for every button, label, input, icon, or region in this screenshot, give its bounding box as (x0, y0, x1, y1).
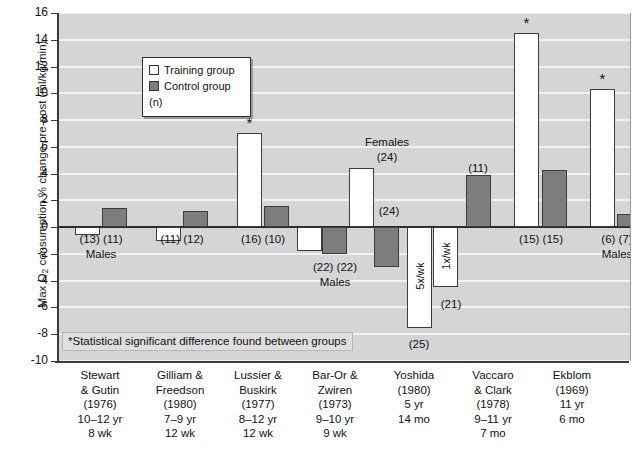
bar-control (102, 208, 127, 227)
n-label-barorzwiren-males: (22) (22) (280, 261, 390, 273)
legend-swatch-control-icon (149, 81, 159, 91)
annotation-males-barorzwiren: Males (280, 276, 390, 288)
y-axis-tick-label: -8 (14, 326, 48, 340)
bar-training (514, 33, 539, 227)
legend-label-control: Control group (164, 80, 231, 92)
legend-item-control: Control group (149, 80, 231, 92)
y-axis-tick-label: 10 (14, 85, 48, 99)
y-axis-tick-label: -6 (14, 299, 48, 313)
gridline (59, 306, 630, 308)
annotation-females-barorzwiren: Females (332, 136, 442, 148)
significance-star: * (588, 74, 618, 84)
plot-area: *5x/wk1x/wk**(13) (11)Males(11) (12)(16)… (57, 13, 631, 361)
bar-control (466, 175, 491, 227)
significance-star: * (512, 18, 542, 28)
y-axis-tick-label: -4 (14, 273, 48, 287)
bar-training (590, 89, 615, 227)
gridline (59, 39, 630, 41)
legend-swatch-training-icon (149, 65, 159, 75)
x-axis-category-line: (1969) (517, 383, 627, 398)
y-axis-tick-label: 0 (14, 219, 48, 233)
bar-training (237, 133, 262, 227)
footnote: *Statistical significant difference foun… (62, 332, 353, 351)
bar-control (264, 206, 289, 227)
annotation-males-stewart: Males (57, 248, 156, 260)
gridline (59, 13, 630, 14)
bar-control (542, 170, 567, 228)
x-axis-category-line: 6 mo (517, 412, 627, 427)
n-label-yoshida-1xwk: (21) (396, 298, 506, 310)
bar-training (349, 168, 374, 227)
y-axis-tick-label: -10 (14, 353, 48, 367)
chart-page: Max O2 consumption % change pre-post (ml… (0, 0, 641, 454)
x-axis-category-line: 7 mo (438, 426, 548, 441)
bar-control (617, 214, 631, 227)
n-label-ekblom: (6) (7) (562, 233, 631, 245)
annotation-males-ekblom: Males (562, 248, 631, 260)
y-axis-label-rest: consumption % change pre-post (ml/kg/min… (36, 41, 48, 269)
y-axis-tick-label: -2 (14, 246, 48, 260)
legend-item-training: Training group (149, 64, 235, 76)
legend: Training group Control group (n) (142, 57, 251, 117)
legend-label-n: (n) (149, 96, 162, 108)
n-label-yoshida-control: (11) (423, 162, 533, 174)
bar-inner-label: 5x/wk (414, 258, 426, 294)
x-axis-category-6: Ekblom(1969)11 yr6 mo (517, 368, 627, 426)
bar-control (183, 211, 208, 227)
x-axis-category-line: 11 yr (517, 397, 627, 412)
legend-label-training: Training group (164, 64, 235, 76)
y-axis-tick-label: 2 (14, 192, 48, 206)
n-label-females-control: (24) (334, 205, 444, 217)
y-axis-tick-label: 14 (14, 32, 48, 46)
gridline (59, 119, 630, 121)
n-label-lussier: (16) (10) (208, 233, 318, 245)
y-axis-tick-label: 16 (14, 5, 48, 19)
y-axis-tick-label: 4 (14, 166, 48, 180)
legend-item-n: (n) (149, 96, 162, 108)
bar-inner-label: 1x/wk (440, 238, 452, 274)
y-axis-tick-label: 6 (14, 139, 48, 153)
bar-control (322, 227, 347, 254)
x-axis-category-line: 9 wk (280, 426, 390, 441)
y-axis-tick-label: 12 (14, 59, 48, 73)
x-axis-category-line: Ekblom (517, 368, 627, 383)
significance-star: * (235, 118, 265, 128)
y-axis-tick-label: 8 (14, 112, 48, 126)
n-label-yoshida-5xwk: (25) (364, 338, 474, 350)
x-axis-line (55, 361, 629, 363)
